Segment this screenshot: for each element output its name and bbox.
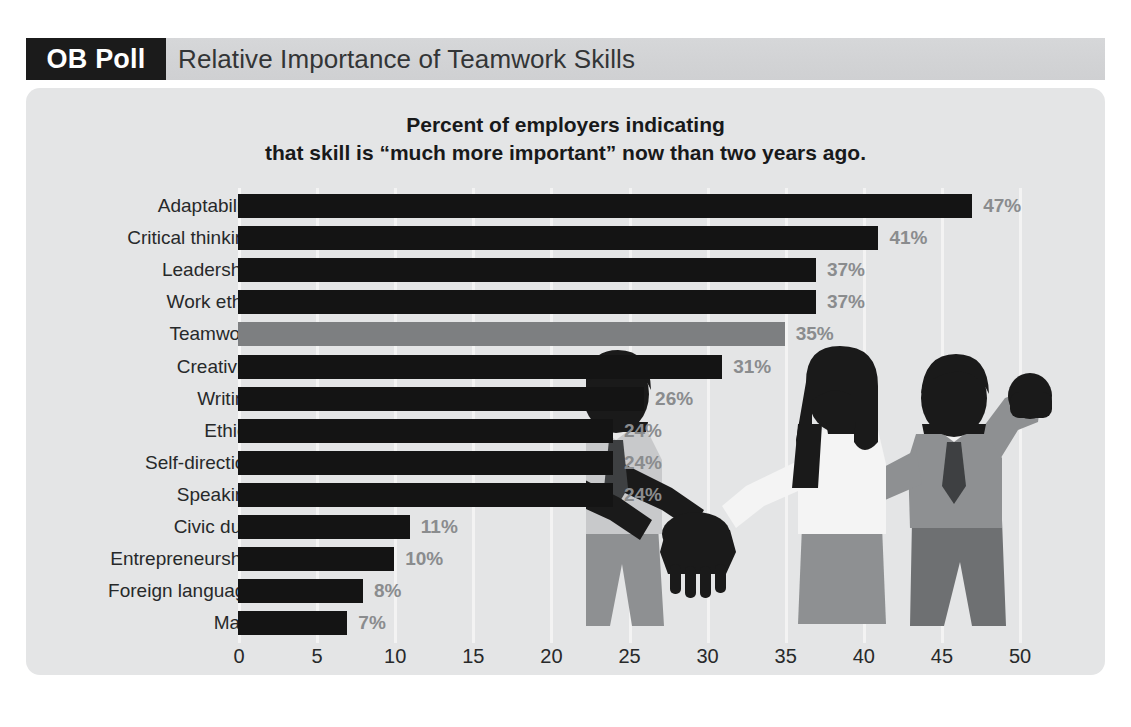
x-tick-label-45: 45 bbox=[912, 645, 972, 668]
bar-row[interactable]: Entrepreneurship10% bbox=[26, 543, 1105, 575]
x-tick-label-20: 20 bbox=[521, 645, 581, 668]
bar-work-ethic[interactable] bbox=[238, 290, 816, 314]
category-label-entrepreneurship: Entrepreneurship bbox=[26, 543, 265, 575]
ob-poll-badge: OB Poll bbox=[26, 38, 166, 80]
category-label-teamwork: Teamwork bbox=[26, 318, 265, 350]
bar-row[interactable]: Adaptability47% bbox=[26, 190, 1105, 222]
category-label-civic-duty: Civic duty bbox=[26, 511, 265, 543]
category-label-self-direction: Self-direction bbox=[26, 447, 265, 479]
bar-value-self-direction: 24% bbox=[624, 447, 662, 479]
bar-value-work-ethic: 37% bbox=[827, 286, 865, 318]
bar-speaking[interactable] bbox=[238, 483, 613, 507]
bar-row[interactable]: Work ethic37% bbox=[26, 286, 1105, 318]
x-tick-label-35: 35 bbox=[756, 645, 816, 668]
bar-value-ethics: 24% bbox=[624, 415, 662, 447]
bar-row[interactable]: Math7% bbox=[26, 607, 1105, 639]
bar-teamwork[interactable] bbox=[238, 322, 785, 346]
category-label-foreign-language: Foreign language bbox=[26, 575, 265, 607]
x-tick-label-0: 0 bbox=[209, 645, 269, 668]
bar-value-civic-duty: 11% bbox=[421, 511, 458, 543]
bar-writing[interactable] bbox=[238, 387, 644, 411]
bar-row[interactable]: Critical thinking41% bbox=[26, 222, 1105, 254]
x-tick-mark-15 bbox=[472, 636, 475, 643]
bar-creativity[interactable] bbox=[238, 355, 722, 379]
bar-value-entrepreneurship: 10% bbox=[405, 543, 443, 575]
chart-panel: Percent of employers indicating that ski… bbox=[26, 88, 1105, 675]
category-label-speaking: Speaking bbox=[26, 479, 265, 511]
bar-value-speaking: 24% bbox=[624, 479, 662, 511]
x-tick-mark-20 bbox=[550, 636, 553, 643]
bar-leadership[interactable] bbox=[238, 258, 816, 282]
bar-entrepreneurship[interactable] bbox=[238, 547, 394, 571]
bar-row[interactable]: Self-direction24% bbox=[26, 447, 1105, 479]
x-tick-mark-25 bbox=[629, 636, 632, 643]
bar-value-leadership: 37% bbox=[827, 254, 865, 286]
x-tick-label-15: 15 bbox=[443, 645, 503, 668]
x-tick-mark-30 bbox=[707, 636, 710, 643]
bar-critical-thinking[interactable] bbox=[238, 226, 878, 250]
x-tick-mark-5 bbox=[316, 636, 319, 643]
x-tick-mark-40 bbox=[863, 636, 866, 643]
bar-row[interactable]: Foreign language8% bbox=[26, 575, 1105, 607]
bar-adaptability[interactable] bbox=[238, 194, 972, 218]
x-tick-mark-45 bbox=[941, 636, 944, 643]
x-tick-label-10: 10 bbox=[365, 645, 425, 668]
bar-row[interactable]: Writing26% bbox=[26, 383, 1105, 415]
bar-self-direction[interactable] bbox=[238, 451, 613, 475]
bar-math[interactable] bbox=[238, 611, 347, 635]
bar-value-math: 7% bbox=[358, 607, 385, 639]
x-tick-mark-50 bbox=[1019, 636, 1022, 643]
x-tick-mark-0 bbox=[238, 636, 241, 643]
category-label-creativity: Creativity bbox=[26, 351, 265, 383]
category-label-math: Math bbox=[26, 607, 265, 639]
category-label-leadership: Leadership bbox=[26, 254, 265, 286]
bar-row[interactable]: Leadership37% bbox=[26, 254, 1105, 286]
bar-ethics[interactable] bbox=[238, 419, 613, 443]
bar-row[interactable]: Speaking24% bbox=[26, 479, 1105, 511]
bar-value-creativity: 31% bbox=[733, 351, 771, 383]
page-title: Relative Importance of Teamwork Skills bbox=[178, 38, 635, 80]
category-label-work-ethic: Work ethic bbox=[26, 286, 265, 318]
x-tick-label-30: 30 bbox=[678, 645, 738, 668]
x-tick-label-40: 40 bbox=[834, 645, 894, 668]
x-tick-label-25: 25 bbox=[600, 645, 660, 668]
bar-row[interactable]: Civic duty11% bbox=[26, 511, 1105, 543]
bar-civic-duty[interactable] bbox=[238, 515, 410, 539]
x-tick-label-50: 50 bbox=[990, 645, 1050, 668]
header-band: OB Poll Relative Importance of Teamwork … bbox=[26, 38, 1105, 80]
bar-value-writing: 26% bbox=[655, 383, 693, 415]
bar-row[interactable]: Ethics24% bbox=[26, 415, 1105, 447]
bar-value-teamwork: 35% bbox=[796, 318, 834, 350]
bar-row[interactable]: Teamwork35% bbox=[26, 318, 1105, 350]
category-label-ethics: Ethics bbox=[26, 415, 265, 447]
bar-row[interactable]: Creativity31% bbox=[26, 351, 1105, 383]
bar-foreign-language[interactable] bbox=[238, 579, 363, 603]
bar-value-adaptability: 47% bbox=[983, 190, 1021, 222]
x-tick-mark-10 bbox=[394, 636, 397, 643]
plot-area: Adaptability47%Critical thinking41%Leade… bbox=[26, 88, 1105, 675]
category-label-critical-thinking: Critical thinking bbox=[26, 222, 265, 254]
bar-value-foreign-language: 8% bbox=[374, 575, 401, 607]
category-label-adaptability: Adaptability bbox=[26, 190, 265, 222]
x-tick-mark-35 bbox=[785, 636, 788, 643]
x-axis: 05101520253035404550 bbox=[26, 636, 1105, 675]
bar-value-critical-thinking: 41% bbox=[889, 222, 927, 254]
category-label-writing: Writing bbox=[26, 383, 265, 415]
x-tick-label-5: 5 bbox=[287, 645, 347, 668]
